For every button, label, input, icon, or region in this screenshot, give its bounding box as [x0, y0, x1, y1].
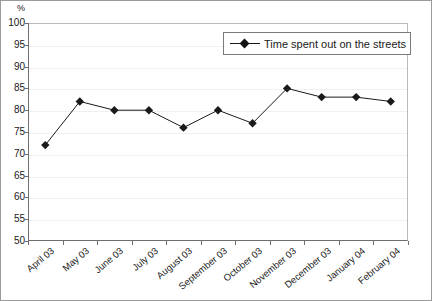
data-point-marker	[352, 93, 360, 101]
y-axis-tick-label: 75	[3, 127, 25, 137]
y-axis-tick-label: 55	[3, 214, 25, 224]
chart-legend: Time spent out on the streets	[223, 32, 411, 55]
x-axis-tick-label: July 03	[130, 245, 160, 273]
y-axis-tick-label: 90	[3, 62, 25, 72]
data-point-marker	[110, 106, 118, 114]
x-axis-tick-label: May 03	[60, 245, 91, 273]
data-point-marker	[179, 123, 187, 131]
series-polyline	[45, 88, 390, 145]
y-axis-tick-label: 65	[3, 171, 25, 181]
y-axis-tick-label: 80	[3, 105, 25, 115]
series-line-time-spent-out-on-the-streets	[28, 23, 408, 241]
chart-page: % 50556065707580859095100 April 03May 03…	[0, 0, 432, 301]
data-point-marker	[145, 106, 153, 114]
y-axis-tick-labels: 50556065707580859095100	[1, 23, 25, 241]
x-axis-tick-labels: April 03May 03June 03July 03August 03Sep…	[28, 245, 408, 301]
x-axis-tick-label: June 03	[92, 245, 125, 275]
y-axis-tick-label: 100	[3, 18, 25, 28]
x-axis-tick-label: April 03	[25, 245, 57, 274]
data-point-marker	[317, 93, 325, 101]
y-axis-tick-label: 60	[3, 192, 25, 202]
y-axis-tick-label: 50	[3, 236, 25, 246]
legend-label: Time spent out on the streets	[264, 38, 406, 50]
data-point-marker	[387, 97, 395, 105]
data-point-marker	[214, 106, 222, 114]
legend-marker-icon	[230, 38, 260, 50]
y-axis-unit-label: %	[17, 3, 25, 13]
x-axis-tick-mark	[408, 241, 409, 245]
y-axis-tick-label: 70	[3, 149, 25, 159]
y-axis-tick-label: 95	[3, 40, 25, 50]
series-markers	[41, 84, 395, 149]
y-axis-tick-label: 85	[3, 83, 25, 93]
